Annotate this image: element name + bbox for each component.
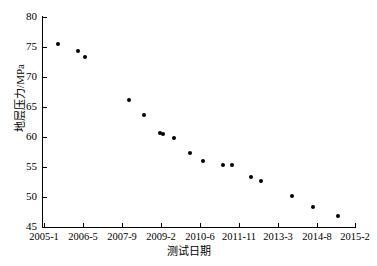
y-tick-label: 70 [26,71,37,82]
data-point [188,151,193,156]
data-point [56,42,61,47]
data-point [76,49,81,54]
data-point [201,159,206,164]
data-point [311,205,316,210]
x-tick-mark [355,223,356,227]
y-tick-label: 65 [26,101,37,112]
x-axis-title: 测试日期 [0,245,377,258]
data-point [230,163,235,168]
pressure-vs-date-chart: 4550556065707580 2005-12006-52007-92009-… [0,0,377,266]
y-tick-label: 75 [26,41,37,52]
y-tick-label: 55 [26,161,37,172]
y-tick-mark [43,227,47,228]
x-tick-label: 2010-6 [185,231,215,243]
data-point [142,113,147,118]
data-point [127,98,132,103]
x-tick-label: 2013-3 [263,231,293,243]
x-tick-label: 2009-2 [146,231,176,243]
x-tick-label: 2011-11 [222,231,256,243]
x-tick-label: 2006-5 [68,231,98,243]
x-tick-label: 2014-8 [302,231,332,243]
data-point [259,179,264,184]
data-point [336,214,341,219]
y-tick-label: 80 [26,11,37,22]
x-tick-label: 2005-1 [29,231,59,243]
x-tick-label: 2015-2 [340,231,370,243]
data-point [221,163,226,168]
x-tick-label: 2007-9 [107,231,137,243]
plot-area [42,17,355,227]
data-point [83,55,88,60]
y-tick-label: 50 [26,191,37,202]
data-point [161,132,166,137]
data-point [249,175,254,180]
x-axis-line [42,227,356,228]
data-point [172,136,177,141]
y-tick-label: 60 [26,131,37,142]
data-point [290,194,295,199]
y-axis-title: 地层压力/MPa [14,43,26,153]
